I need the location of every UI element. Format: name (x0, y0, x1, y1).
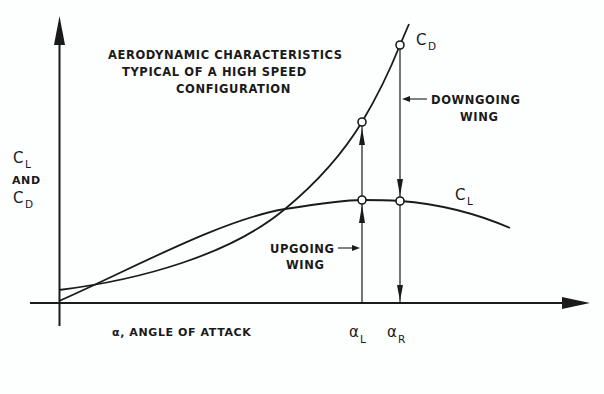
y-label-and: AND (12, 174, 41, 187)
arrow-left-icon (402, 96, 410, 102)
x-axis (30, 297, 590, 309)
cl-label-sub: L (467, 195, 473, 207)
y-axis-arrow-icon (54, 16, 65, 45)
downgoing-wing-text: WING (460, 110, 498, 124)
cd-label: C D (416, 31, 436, 52)
upgoing-text: UPGOING (270, 242, 335, 256)
title-line-3: CONFIGURATION (176, 82, 291, 96)
arrow-down-icon (397, 179, 403, 196)
downgoing-text: DOWNGOING (431, 93, 521, 107)
alpha-l-label: α L (349, 323, 366, 345)
arrow-right-icon (352, 245, 360, 251)
point-cd-alpha-l (358, 118, 366, 126)
y-label-c: C (13, 149, 23, 167)
y-label-c: C (13, 189, 23, 207)
alpha-l-sub: L (360, 333, 366, 345)
arrow-down-icon (397, 285, 403, 301)
cd-label-c: C (416, 31, 426, 49)
downgoing-leader (402, 96, 427, 102)
alpha-r-symbol: α (387, 323, 397, 341)
point-cd-alpha-r (396, 41, 404, 49)
diagram-canvas: AERODYNAMIC CHARACTERISTICS TYPICAL OF A… (0, 0, 604, 394)
cl-label: C L (455, 186, 473, 207)
alpha-l-symbol: α (349, 323, 359, 341)
y-label-sub-d: D (25, 198, 33, 210)
cd-curve (59, 24, 409, 290)
aerodynamic-diagram: AERODYNAMIC CHARACTERISTICS TYPICAL OF A… (0, 0, 604, 394)
point-cl-alpha-l (358, 196, 366, 204)
cd-label-sub: D (428, 40, 436, 52)
alpha-r-sub: R (398, 333, 405, 345)
marked-points (358, 41, 404, 205)
upgoing-wing-text: WING (286, 258, 324, 272)
title-line-2: TYPICAL OF A HIGH SPEED (122, 65, 307, 79)
title-line-1: AERODYNAMIC CHARACTERISTICS (108, 48, 343, 62)
upgoing-wing-line (359, 126, 365, 303)
downgoing-wing-label: DOWNGOING WING (431, 93, 521, 124)
upgoing-wing-label: UPGOING WING (270, 242, 335, 272)
point-cl-alpha-r (396, 197, 404, 205)
upgoing-leader (338, 245, 360, 251)
downgoing-wing-line (397, 49, 403, 303)
y-axis-label: C L AND C D (12, 149, 41, 210)
y-axis (54, 16, 65, 326)
alpha-r-label: α R (387, 323, 405, 345)
cl-label-c: C (455, 186, 465, 204)
x-axis-arrow-icon (562, 297, 590, 309)
x-axis-label: α, ANGLE OF ATTACK (112, 326, 251, 339)
y-label-sub-l: L (25, 158, 31, 170)
diagram-title: AERODYNAMIC CHARACTERISTICS TYPICAL OF A… (108, 48, 343, 96)
arrow-up-icon (359, 205, 365, 223)
arrow-up-icon (359, 128, 365, 145)
